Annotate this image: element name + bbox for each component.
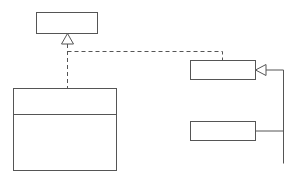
sprite-class-box	[191, 61, 256, 80]
collision-detector-class-box	[14, 89, 117, 171]
realization-dashed-to-sprite	[68, 52, 223, 61]
timed-class-box	[37, 13, 98, 34]
missile-class-box	[191, 122, 256, 141]
sprite-generalization-arrowhead-icon	[256, 65, 267, 76]
generalization-trunk	[266, 70, 284, 164]
timed-realization-arrowhead-icon	[62, 34, 74, 45]
uml-diagram-final	[0, 0, 300, 181]
